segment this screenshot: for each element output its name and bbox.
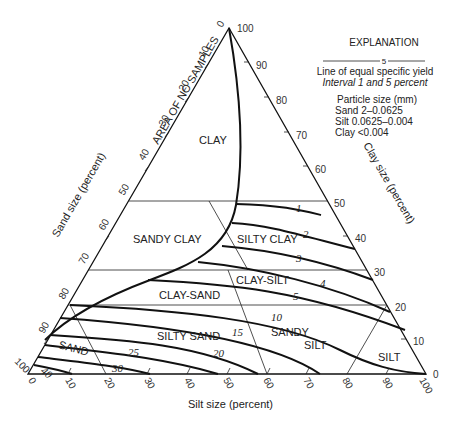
contour-label-5: 5	[293, 290, 299, 302]
explanation-title: EXPLANATION	[349, 37, 418, 48]
silt-tick-90: 90	[380, 376, 395, 392]
legend-line-description: Line of equal specific yield	[317, 66, 434, 77]
region-silty-sand: SILTY SAND	[157, 330, 220, 342]
silt-tick-30: 30	[142, 376, 157, 392]
clay-tick-80: 80	[276, 95, 288, 106]
sand-tick-40: 40	[136, 146, 151, 162]
clay-tick-0: 0	[433, 369, 439, 380]
silt-tick-60: 60	[261, 376, 276, 392]
silt-tick-10: 10	[63, 376, 78, 392]
clay-tick-10: 10	[413, 336, 425, 347]
particle-size-clay: Clay <0.004	[335, 127, 389, 138]
contour-1	[236, 204, 321, 215]
silt-tick-0: 0	[26, 376, 39, 387]
clay-tick-20: 20	[395, 302, 407, 313]
silt-tick-20: 20	[102, 376, 117, 392]
apex-label: 100	[237, 23, 254, 34]
sand-tick-80: 80	[56, 285, 71, 301]
clay-tick-30: 30	[374, 267, 386, 278]
particle-size-title: Particle size (mm)	[337, 94, 417, 105]
sand-tick-0: 0	[214, 18, 227, 29]
silt-tick-50: 50	[221, 376, 236, 392]
silt-divider	[347, 305, 387, 374]
clay-tick-70: 70	[296, 130, 308, 141]
silt-tick-40: 40	[182, 376, 197, 392]
clay-tick-90: 90	[256, 60, 268, 71]
ternary-diagram: 1 2 3 4 5 10 15 20 25 30 40 AREA OF NO S…	[0, 0, 459, 425]
contour-label-1: 1	[296, 202, 302, 214]
contour-label-20: 20	[213, 347, 225, 359]
particle-size-silt: Silt 0.0625–0.004	[335, 116, 413, 127]
sand-tick-50: 50	[116, 181, 131, 197]
clay-tick-60: 60	[315, 164, 327, 175]
region-sandy-silt-line1: SANDY	[271, 326, 310, 338]
region-silt: SILT	[378, 351, 401, 363]
region-clay-silt: CLAY-SILT	[236, 274, 289, 286]
contour-10	[70, 305, 426, 374]
contour-4	[198, 262, 390, 312]
legend-interval: Interval 1 and 5 percent	[322, 77, 428, 88]
particle-size-sand: Sand 2–0.0625	[335, 105, 403, 116]
silt-tick-80: 80	[340, 376, 355, 392]
region-clay-sand: CLAY-SAND	[159, 289, 220, 301]
contour-label-3: 3	[295, 252, 302, 264]
clay-tick-50: 50	[334, 198, 346, 209]
region-sandy-silt-line2: SILT	[304, 339, 327, 351]
contour-label-30: 30	[111, 362, 124, 374]
contour-label-15: 15	[232, 326, 244, 338]
sand-tick-70: 70	[76, 250, 91, 266]
explanation-legend: EXPLANATION 5 Line of equal specific yie…	[317, 37, 434, 138]
region-sandy-clay: SANDY CLAY	[133, 233, 202, 245]
silt-axis-label: Silt size (percent)	[188, 398, 273, 410]
clay-axis-label: Clay size (percent)	[361, 140, 417, 225]
sand-tick-60: 60	[96, 216, 111, 232]
silt-tick-70: 70	[301, 376, 316, 392]
sand-tick-90: 90	[36, 319, 51, 335]
region-clay: CLAY	[199, 134, 228, 146]
clay-tick-40: 40	[355, 233, 367, 244]
contour-label-4: 4	[320, 277, 326, 289]
contour-label-10: 10	[271, 311, 283, 323]
region-silty-clay: SILTY CLAY	[237, 233, 298, 245]
region-sand: SAND	[57, 338, 90, 358]
legend-sample-label: 5	[382, 57, 387, 66]
contour-label-2: 2	[303, 228, 309, 240]
contour-label-25: 25	[128, 346, 140, 358]
